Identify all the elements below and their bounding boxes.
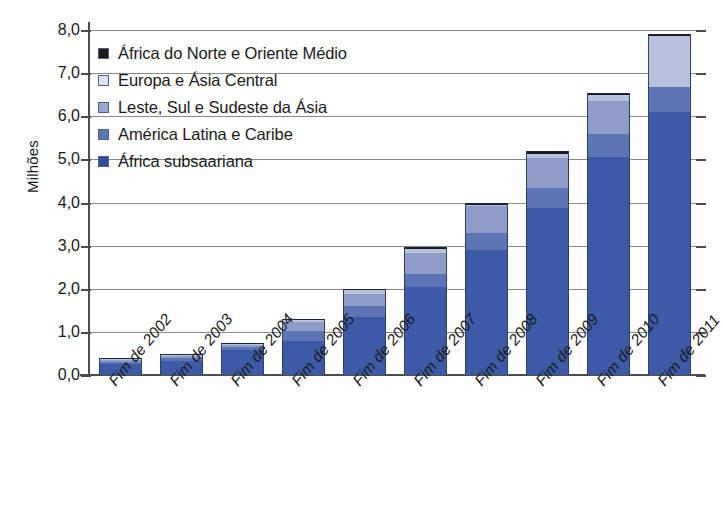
y-axis-tick-label: 1,0 [34, 324, 80, 340]
y-axis-tick-label: 7,0 [34, 65, 80, 81]
y-axis-tick [81, 375, 91, 377]
bar-segment [526, 158, 569, 188]
bar-segment [465, 206, 508, 233]
y-axis-tick-label: 8,0 [34, 22, 80, 38]
legend-item-label: África do Norte e Oriente Médio [118, 44, 347, 63]
bar-segment [587, 101, 630, 133]
legend-item[interactable]: Europa e Ásia Central [98, 67, 438, 94]
y-axis-tick-label: 3,0 [34, 238, 80, 254]
legend-item-label: Europa e Ásia Central [118, 71, 277, 90]
bar-segment [404, 274, 447, 287]
bar-segment [465, 233, 508, 250]
legend-item[interactable]: Leste, Sul e Sudeste da Ásia [98, 94, 438, 121]
legend-item-label: África subsaariana [118, 152, 253, 171]
chart-legend: África do Norte e Oriente MédioEuropa e … [98, 40, 438, 175]
y-axis-tick-label: 2,0 [34, 281, 80, 297]
y-axis-tick-right [696, 375, 706, 377]
legend-item[interactable]: África subsaariana [98, 148, 438, 175]
bar-segment [648, 112, 691, 375]
legend-swatch-icon [98, 129, 109, 140]
legend-swatch-icon [98, 48, 109, 59]
bar-segment [587, 134, 630, 158]
y-axis-tick-label: 6,0 [34, 108, 80, 124]
bar-segment [648, 87, 691, 112]
bar-segment [648, 36, 691, 87]
x-axis-tick-labels: Fim de 2002Fim de 2003Fim de 2004Fim de … [0, 378, 712, 510]
legend-swatch-icon [98, 156, 109, 167]
legend-swatch-icon [98, 102, 109, 113]
bar-segment [526, 188, 569, 207]
legend-item[interactable]: América Latina e Caribe [98, 121, 438, 148]
legend-item[interactable]: África do Norte e Oriente Médio [98, 40, 438, 67]
legend-swatch-icon [98, 75, 109, 86]
bar-segment [343, 294, 386, 306]
bar-segment [404, 253, 447, 274]
legend-item-label: Leste, Sul e Sudeste da Ásia [118, 98, 327, 117]
y-axis-tick-label: 5,0 [34, 151, 80, 167]
legend-item-label: América Latina e Caribe [118, 125, 293, 144]
y-axis-tick-label: 4,0 [34, 195, 80, 211]
